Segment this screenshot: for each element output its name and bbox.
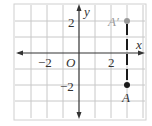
tick-x-neg2: −2 — [38, 55, 52, 70]
tick-y-pos2: 2 — [68, 15, 75, 30]
point-a — [124, 82, 130, 88]
point-a-prime-label: A′ — [107, 14, 119, 29]
y-axis-label: y — [82, 4, 90, 19]
x-axis-label: x — [135, 37, 142, 52]
coordinate-plane: y x O −2 2 2 −2 A′ A — [0, 0, 152, 126]
point-a-prime — [124, 18, 130, 24]
tick-y-neg2: −2 — [60, 79, 74, 94]
origin-label: O — [66, 55, 76, 70]
point-a-label: A — [121, 90, 130, 105]
tick-x-pos2: 2 — [108, 55, 115, 70]
